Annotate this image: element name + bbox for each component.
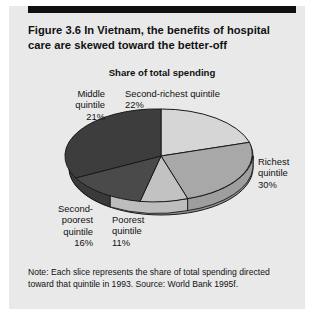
figure-title: Figure 3.6 In Vietnam, the benefits of h… <box>28 23 290 52</box>
pie-chart: Middle quintile 21% Second-richest quint… <box>9 84 305 254</box>
slice-label-poorest: Poorest quintile 11% <box>112 214 182 248</box>
header-rule <box>28 6 296 13</box>
figure-panel: Figure 3.6 In Vietnam, the benefits of h… <box>9 6 305 309</box>
slice-label-second-richest: Second-richest quintile 22% <box>125 88 275 111</box>
slice-label-middle: Middle quintile 21% <box>31 88 105 122</box>
pie-top-face <box>65 109 252 202</box>
chart-subtitle: Share of total spending <box>28 67 296 78</box>
figure-note: Note: Each slice represents the share of… <box>28 267 294 290</box>
slice-label-richest: Richest quintile 30% <box>258 156 305 190</box>
slice-label-second-poorest: Second- poorest quintile 16% <box>31 203 93 249</box>
